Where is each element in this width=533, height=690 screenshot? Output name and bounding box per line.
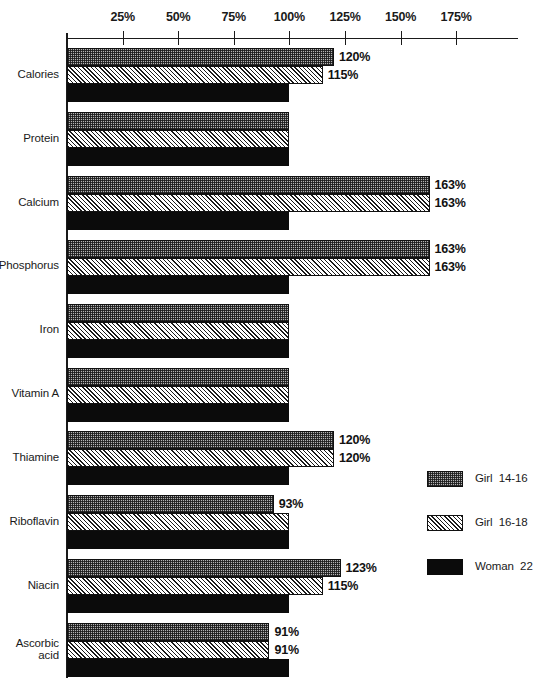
category-label: Calcium bbox=[18, 196, 59, 209]
axis-tick bbox=[401, 31, 402, 45]
bar bbox=[67, 84, 289, 102]
bar-value-label: 91% bbox=[274, 643, 298, 657]
bar-value-label: 163% bbox=[435, 260, 466, 274]
category-label: Protein bbox=[23, 132, 59, 145]
legend-label: Woman 22 bbox=[475, 560, 533, 572]
category-label: Phosphorus bbox=[0, 259, 59, 272]
category-label: Iron bbox=[40, 323, 59, 336]
category-label: Thiamine bbox=[13, 451, 60, 464]
bar-value-label: 120% bbox=[339, 451, 370, 465]
bar bbox=[67, 48, 334, 66]
bar bbox=[67, 386, 289, 404]
axis-tick bbox=[289, 31, 290, 45]
bar-value-label: 120% bbox=[339, 50, 370, 64]
bar bbox=[67, 276, 289, 294]
bar bbox=[67, 368, 289, 386]
bar bbox=[67, 304, 289, 322]
bar bbox=[67, 467, 289, 485]
bar bbox=[67, 595, 289, 613]
bar-value-label: 115% bbox=[328, 579, 358, 593]
bar bbox=[67, 176, 430, 194]
bar bbox=[67, 513, 289, 531]
bar-value-label: 123% bbox=[346, 561, 377, 575]
bar bbox=[67, 641, 269, 659]
x-axis-line bbox=[67, 38, 518, 39]
bar bbox=[67, 577, 323, 595]
axis-tick-label: 75% bbox=[222, 10, 246, 24]
axis-tick bbox=[456, 31, 457, 45]
category-label: Vitamin A bbox=[12, 387, 59, 400]
axis-tick-label: 175% bbox=[441, 10, 472, 24]
legend-label: Girl 16-18 bbox=[475, 516, 528, 528]
bar bbox=[67, 130, 289, 148]
bar bbox=[67, 240, 430, 258]
legend-swatch-icon bbox=[427, 471, 463, 487]
axis-tick bbox=[178, 31, 179, 45]
legend-swatch-icon bbox=[427, 559, 463, 575]
bar bbox=[67, 112, 289, 130]
bar-value-label: 91% bbox=[274, 625, 298, 639]
bar bbox=[67, 623, 269, 641]
bar bbox=[67, 404, 289, 422]
legend-label: Girl 14-16 bbox=[475, 472, 528, 484]
axis-tick-label: 25% bbox=[110, 10, 134, 24]
axis-tick-label: 100% bbox=[274, 10, 305, 24]
category-label: Calories bbox=[18, 68, 59, 81]
axis-tick bbox=[234, 31, 235, 45]
bar bbox=[67, 148, 289, 166]
bar bbox=[67, 340, 289, 358]
bar bbox=[67, 322, 289, 340]
bar bbox=[67, 258, 430, 276]
axis-tick bbox=[345, 31, 346, 45]
bar-value-label: 163% bbox=[435, 242, 466, 256]
bar bbox=[67, 449, 334, 467]
bar-value-label: 163% bbox=[435, 178, 466, 192]
bar bbox=[67, 212, 289, 230]
axis-tick-label: 50% bbox=[166, 10, 190, 24]
bar bbox=[67, 431, 334, 449]
bar-value-label: 163% bbox=[435, 196, 466, 210]
axis-tick-label: 150% bbox=[385, 10, 416, 24]
category-label: Ascorbic acid bbox=[16, 637, 59, 662]
bar-chart: 25%50%75%100%125%150%175% CaloriesProtei… bbox=[0, 0, 533, 690]
bar bbox=[67, 659, 289, 677]
axis-tick bbox=[123, 31, 124, 45]
axis-tick-label: 125% bbox=[329, 10, 360, 24]
bar bbox=[67, 531, 289, 549]
category-label: Niacin bbox=[28, 579, 59, 592]
bar bbox=[67, 559, 341, 577]
bar bbox=[67, 194, 430, 212]
category-label: Riboflavin bbox=[10, 515, 60, 528]
bar bbox=[67, 66, 323, 84]
bar-value-label: 120% bbox=[339, 433, 370, 447]
bar bbox=[67, 495, 274, 513]
bar-value-label: 93% bbox=[279, 497, 303, 511]
legend-swatch-icon bbox=[427, 515, 463, 531]
bar-value-label: 115% bbox=[328, 68, 358, 82]
